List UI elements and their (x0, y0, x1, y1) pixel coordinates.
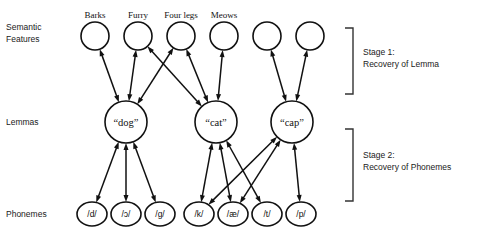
semantic-feature-label: Furry (128, 10, 148, 20)
arrowhead-forward (255, 196, 261, 203)
stage1-link-lemma-cap-to-sf-blank-1 (270, 49, 286, 101)
connection-shaft (243, 144, 278, 199)
arrowhead-backward (275, 140, 281, 147)
semantic-feature-node-four-legs[interactable] (167, 22, 195, 50)
arrowhead-forward (100, 49, 105, 56)
stage2-link-lemma-cap-to-ph-ae (240, 140, 281, 204)
arrowhead-forward (168, 48, 174, 55)
arrowhead-forward (200, 195, 205, 202)
stage-1-line2: Recovery of Lemma (363, 59, 439, 69)
arrowhead-forward (133, 50, 138, 57)
stage2-link-lemma-dog-to-ph-oh (124, 143, 129, 202)
connection-shaft (295, 148, 300, 197)
arrowhead-backward (137, 97, 143, 104)
connection-shaft (135, 146, 154, 197)
arrowhead-forward (240, 196, 246, 203)
arrowhead-backward (292, 143, 297, 150)
semantic-feature-label: Four legs (164, 10, 198, 20)
phoneme-label: /d/ (87, 209, 97, 219)
ph-p-node[interactable]: /p/ (286, 202, 316, 226)
semantic-feature-label: Meows (211, 10, 238, 20)
connection-shaft (202, 148, 211, 198)
phoneme-label: /æ/ (227, 209, 240, 219)
lemma-cat-node[interactable]: “cat” (195, 101, 237, 143)
ph-ae-node[interactable]: /æ/ (218, 202, 248, 226)
arrowhead-backward (203, 95, 208, 102)
phoneme-label: /t/ (263, 209, 271, 219)
connection-shaft (218, 55, 222, 96)
lemma-label: “cat” (205, 117, 227, 128)
node-circle (167, 22, 195, 50)
phoneme-label: /g/ (155, 209, 165, 219)
ph-oh-node[interactable]: /ɔ/ (111, 202, 141, 226)
stage2-link-lemma-cat-to-ph-k (200, 143, 213, 202)
arrowhead-backward (208, 143, 213, 150)
connection-shaft (272, 54, 284, 97)
row-label-lemmas: Lemmas (6, 117, 39, 127)
stage1-link-lemma-cap-to-sf-blank-2 (295, 50, 308, 102)
arrowhead-backward (124, 143, 129, 150)
arrowhead-forward (270, 49, 275, 56)
ph-g-node[interactable]: /g/ (145, 202, 175, 226)
stage-brackets-layer (345, 28, 353, 201)
stage-2-line1: Stage 2: (363, 150, 395, 160)
phoneme-label: /p/ (296, 209, 306, 219)
stage2-link-lemma-dog-to-ph-d (96, 142, 118, 203)
node-circle (210, 22, 238, 50)
connection-shaft (229, 145, 259, 199)
stage-2-bracket (345, 129, 353, 201)
ph-k-node[interactable]: /k/ (184, 202, 214, 226)
arrowhead-forward (96, 195, 101, 202)
stage1-link-lemma-dog-to-sf-furry (127, 50, 137, 101)
connection-shaft (188, 54, 206, 98)
connection-shaft (221, 148, 230, 198)
arrowhead-backward (295, 94, 300, 101)
connection-shaft (140, 52, 171, 100)
arrowhead-backward (133, 142, 138, 149)
stage2-link-lemma-dog-to-ph-g (133, 142, 155, 203)
connection-shaft (151, 50, 199, 103)
semantic-feature-node-blank-5[interactable] (296, 22, 324, 50)
lemma-dog-node[interactable]: “dog” (105, 101, 147, 143)
lexical-access-diagram: “dog”“cat”“cap”/d//ɔ//g//k//æ//t//p/ Bar… (0, 0, 485, 236)
stage-1-bracket (345, 28, 353, 94)
phoneme-label: /ɔ/ (122, 209, 132, 219)
semantic-feature-node-barks[interactable] (81, 22, 109, 50)
arrowhead-backward (226, 140, 232, 147)
lemma-label: “dog” (113, 117, 138, 128)
ph-t-node[interactable]: /t/ (252, 202, 282, 226)
connection-shaft (101, 54, 117, 98)
arrowhead-backward (127, 94, 132, 101)
stage-1-line1: Stage 1: (363, 47, 395, 57)
arrowhead-backward (216, 94, 221, 101)
semantic-feature-node-furry[interactable] (124, 22, 152, 50)
lemma-label: “cap” (280, 117, 304, 128)
stage2-link-lemma-cap-to-ph-k (208, 137, 277, 205)
node-circle (81, 22, 109, 50)
lemma-cap-node[interactable]: “cap” (271, 101, 313, 143)
stage-2-line2: Recovery of Phonemes (363, 162, 451, 172)
arrowhead-backward (114, 142, 119, 149)
row-label-phonemes: Phonemes (6, 209, 47, 219)
node-circle (296, 22, 324, 50)
semantic-feature-label: Barks (85, 10, 106, 20)
stage1-link-lemma-cat-to-sf-four-legs (186, 49, 208, 103)
arrowhead-forward (186, 49, 191, 56)
arrowhead-forward (297, 195, 302, 202)
arrowhead-forward (124, 195, 129, 202)
stage1-link-lemma-cat-to-sf-meows (216, 50, 224, 101)
arrowhead-forward (227, 195, 232, 202)
semantic-feature-node-meows[interactable] (210, 22, 238, 50)
arrowhead-backward (282, 94, 287, 101)
phoneme-label: /k/ (195, 209, 205, 219)
ph-d-node[interactable]: /d/ (77, 202, 107, 226)
feature-labels-layer: BarksFurryFour legsMeows (85, 10, 238, 20)
connection-shaft (98, 146, 117, 197)
stage2-link-lemma-cat-to-ph-t (226, 140, 261, 203)
row-label-semantic-line1: Semantic (6, 22, 42, 32)
arrowhead-backward (114, 95, 119, 102)
arrowhead-forward (303, 50, 308, 57)
node-circle (124, 22, 152, 50)
semantic-feature-node-blank-4[interactable] (253, 22, 281, 50)
stage2-link-lemma-cap-to-ph-p (292, 143, 301, 202)
